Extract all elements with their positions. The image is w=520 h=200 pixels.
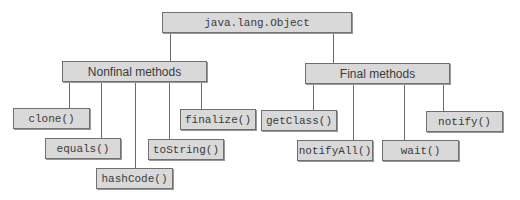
connector-final-notifyall: [353, 84, 354, 140]
method-node-getclass: getClass(): [261, 110, 337, 131]
group-node-final-methods: Final methods: [305, 63, 450, 84]
method-node-wait: wait(): [382, 140, 459, 161]
connector-root-final: [333, 32, 334, 63]
method-node-equals: equals(): [45, 138, 121, 159]
method-node-notifyall: notifyAll(): [297, 140, 373, 161]
method-node-notify: notify(): [426, 111, 503, 132]
root-node-java-lang-object: java.lang.Object: [162, 12, 352, 33]
method-node-finalize: finalize(): [180, 109, 256, 130]
connector-final-notify: [443, 84, 444, 111]
connector-root-nonfinal: [170, 32, 171, 61]
java-object-methods-diagram: java.lang.Object Nonfinal methods Final …: [0, 0, 520, 200]
method-node-hashcode: hashCode(): [96, 168, 173, 189]
connector-nonfinal-equals: [101, 81, 102, 138]
connector-final-getclass: [313, 84, 314, 110]
connector-nonfinal-hashcode: [135, 81, 136, 168]
connector-nonfinal-tostring: [169, 81, 170, 139]
method-node-tostring: toString(): [148, 139, 224, 160]
connector-nonfinal-clone: [69, 81, 70, 108]
connector-final-wait: [404, 84, 405, 140]
connector-nonfinal-finalize: [201, 81, 202, 109]
method-node-clone: clone(): [13, 108, 90, 129]
group-node-nonfinal-methods: Nonfinal methods: [62, 61, 207, 82]
